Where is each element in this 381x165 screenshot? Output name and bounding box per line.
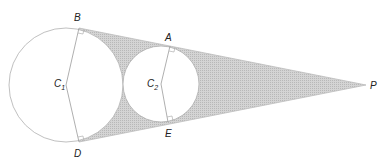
tangent-circles-diagram: B D A E P C1 C2	[0, 0, 381, 165]
label-d: D	[74, 148, 81, 159]
label-p: P	[370, 80, 377, 91]
label-b: B	[74, 12, 81, 23]
label-a: A	[164, 32, 172, 43]
label-e: E	[165, 128, 172, 139]
